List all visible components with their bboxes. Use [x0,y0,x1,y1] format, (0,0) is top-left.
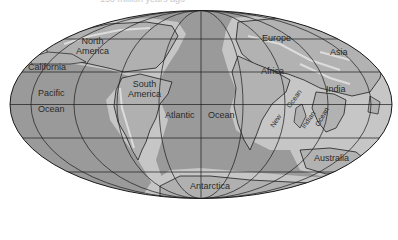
label-india: India [326,84,346,94]
label-antarctica: Antarctica [190,181,230,191]
label-australia: Australia [314,153,349,163]
label-north: North [76,36,109,46]
label-pacific-ocean-word: Ocean [38,104,65,114]
label-atlantic: Atlantic [165,110,195,120]
label-south-america: South America [128,79,161,99]
label-south: South [128,79,161,89]
label-africa: Africa [261,66,284,76]
label-california: California [28,62,66,72]
label-asia: Asia [330,47,348,57]
label-pacific-ocean: Pacific Ocean [38,88,65,114]
label-europe: Europe [262,33,291,43]
label-atlantic-ocean: Ocean [208,110,235,120]
label-pacific: Pacific [38,88,65,98]
label-south-america-word: America [128,89,161,99]
label-north-america: North America [76,36,109,56]
label-america: America [76,46,109,56]
